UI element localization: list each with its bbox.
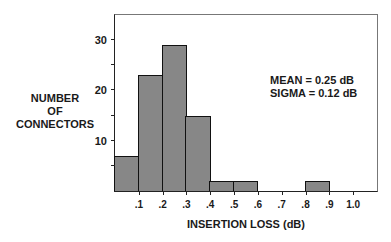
x-tick-label: .1: [135, 199, 143, 210]
x-tick-label: .7: [278, 199, 286, 210]
y-tick: [111, 140, 115, 141]
x-tick: [186, 191, 187, 195]
y-axis-title-line-1: NUMBER: [0, 92, 110, 105]
histogram-bar: [233, 181, 258, 191]
histogram-bar: [305, 181, 330, 191]
y-axis-title-line-3: CONNECTORS: [0, 118, 110, 131]
histogram-bar: [185, 116, 210, 191]
y-tick: [111, 115, 115, 116]
x-tick: [282, 191, 283, 195]
y-tick: [111, 64, 115, 65]
x-tick-label: .2: [158, 199, 166, 210]
x-tick-label: .4: [206, 199, 214, 210]
histogram-bar: [138, 75, 163, 191]
y-axis-title-line-2: OF: [0, 105, 110, 118]
x-tick: [329, 191, 330, 195]
x-tick: [258, 191, 259, 195]
x-tick-label: .6: [254, 199, 262, 210]
y-tick: [111, 89, 115, 90]
y-tick: [111, 39, 115, 40]
x-tick-label: 1.0: [346, 199, 360, 210]
x-tick: [353, 191, 354, 195]
mean-label: MEAN = 0.25 dB: [270, 74, 357, 87]
histogram-bar: [114, 156, 139, 191]
x-tick-label: .5: [230, 199, 238, 210]
x-tick-label: .9: [325, 199, 333, 210]
y-axis-title: NUMBER OF CONNECTORS: [0, 92, 110, 131]
histogram-bar: [209, 181, 234, 191]
x-tick: [163, 191, 164, 195]
x-tick: [306, 191, 307, 195]
histogram-bar: [162, 45, 187, 191]
sigma-label: SIGMA = 0.12 dB: [270, 87, 357, 100]
x-tick: [139, 191, 140, 195]
x-tick-label: .3: [182, 199, 190, 210]
y-tick-label: 10: [95, 135, 107, 147]
x-tick-label: .8: [301, 199, 309, 210]
x-tick: [210, 191, 211, 195]
x-axis-title: INSERTION LOSS (dB): [114, 218, 378, 230]
x-tick: [234, 191, 235, 195]
plot-area: 102030.1.2.3.4.5.6.7.8.91.0: [114, 14, 378, 192]
statistics-annotation: MEAN = 0.25 dB SIGMA = 0.12 dB: [270, 74, 357, 100]
y-tick-label: 20: [95, 84, 107, 96]
y-tick: [111, 165, 115, 166]
y-tick-label: 30: [95, 34, 107, 46]
